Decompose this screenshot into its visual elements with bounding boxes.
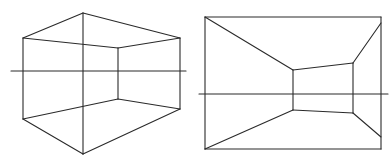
edge-line [118,38,180,48]
edge-line [353,113,381,137]
edge-line [205,17,293,70]
edge-line [293,63,353,70]
edge-line [118,99,180,109]
edge-line [23,38,118,48]
perspective-diagram [0,0,392,162]
edge-line [83,13,180,38]
edge-line [293,110,353,113]
edge-line [23,99,118,119]
edge-line [83,109,180,154]
edge-line [23,13,83,38]
edge-line [23,119,83,154]
two-point-perspective-box [11,13,186,154]
edge-line [205,110,293,149]
one-point-perspective-room [199,17,388,149]
edge-line [353,23,381,63]
